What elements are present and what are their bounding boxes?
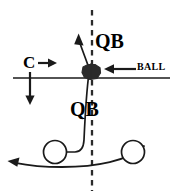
player-circle-icon (44, 141, 67, 164)
label-qb-bottom: QB (70, 99, 99, 119)
center-down-arrowhead-icon (25, 96, 34, 106)
football-play-diagram: QB QB BALL C (0, 0, 176, 196)
center-right-arrowhead-icon (48, 59, 57, 68)
player-circle-icon (122, 141, 145, 164)
qb-up-route-arrowhead-icon (74, 34, 83, 46)
sweep-route-arrowhead-icon (8, 158, 20, 167)
label-ball: BALL (137, 62, 165, 72)
ball-pointer-arrowhead-icon (104, 64, 114, 73)
label-center: C (23, 54, 35, 71)
label-qb-top: QB (95, 31, 124, 51)
